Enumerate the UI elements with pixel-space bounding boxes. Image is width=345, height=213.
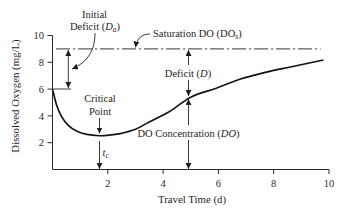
- y-tick-label: 8: [39, 57, 44, 68]
- y-axis-ticks: 246810: [34, 30, 53, 148]
- saturation-pointer-arrow: [136, 34, 151, 48]
- initial-deficit-pointer-arrow: [72, 33, 95, 69]
- x-axis-ticks: 246810: [105, 170, 334, 190]
- y-tick-label: 2: [39, 137, 44, 148]
- do-concentration-label: DO Concentration (DO): [137, 128, 240, 140]
- do-sag-curve-figure: 246810 246810 Travel Time (d) Dissolved …: [0, 0, 345, 213]
- x-tick-label: 4: [160, 178, 166, 189]
- x-tick-label: 6: [216, 178, 221, 189]
- saturation-do-label: Saturation DO (DOs): [153, 28, 242, 41]
- x-tick-label: 10: [324, 178, 335, 189]
- x-axis-title: Travel Time (d): [158, 193, 226, 206]
- initial-deficit-label-line2: Deficit (Da): [70, 21, 121, 34]
- y-axis-title: Dissolved Oxygen (mg/L): [9, 39, 22, 153]
- initial-deficit-label-line1: Initial: [82, 9, 107, 20]
- critical-point-label-line1: Critical: [84, 93, 116, 104]
- critical-point-label-line2: Point: [89, 106, 111, 117]
- plot-canvas: 246810 246810 Travel Time (d) Dissolved …: [0, 0, 345, 213]
- x-tick-label: 2: [105, 178, 110, 189]
- x-tick-label: 8: [271, 178, 276, 189]
- critical-time-label: tc: [103, 147, 110, 160]
- y-tick-label: 6: [39, 84, 44, 95]
- y-tick-label: 10: [34, 30, 45, 41]
- deficit-label: Deficit (D): [165, 68, 212, 80]
- y-tick-label: 4: [39, 111, 45, 122]
